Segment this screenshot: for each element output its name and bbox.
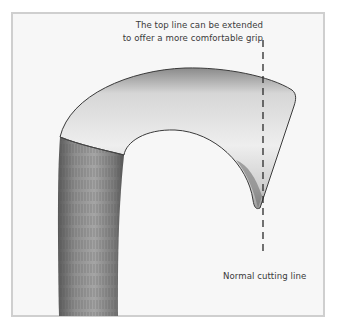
top-annotation-line-2: to offer a more comfortable grip — [123, 32, 263, 45]
cutting-line-label: Normal cutting line — [223, 270, 306, 283]
shaft — [58, 137, 124, 316]
top-annotation: The top line can be extended to offer a … — [123, 19, 263, 45]
top-annotation-line-1: The top line can be extended — [123, 19, 263, 32]
